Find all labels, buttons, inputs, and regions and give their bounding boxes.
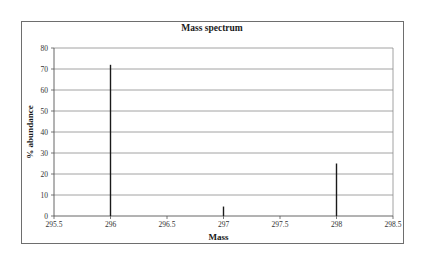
y-tick-label: 80 (41, 44, 49, 53)
x-tick-label: 297 (218, 220, 230, 229)
y-tick-label: 40 (41, 128, 49, 137)
y-axis-title: % abundance (25, 105, 35, 158)
plot-area: 01020304050607080295.5296296.5297297.529… (0, 0, 424, 257)
y-tick-label: 30 (41, 149, 49, 158)
y-tick-label: 70 (41, 65, 49, 74)
y-tick-label: 10 (41, 191, 49, 200)
y-tick-label: 20 (41, 170, 49, 179)
x-tick-label: 296 (105, 220, 117, 229)
x-tick-label: 298 (331, 220, 343, 229)
x-tick-label: 297.5 (272, 220, 289, 229)
y-tick-label: 50 (41, 107, 49, 116)
x-axis-title: Mass (209, 232, 229, 242)
x-tick-label: 296.5 (159, 220, 176, 229)
y-tick-label: 60 (41, 86, 49, 95)
x-tick-label: 295.5 (46, 220, 63, 229)
x-tick-label: 298.5 (385, 220, 402, 229)
